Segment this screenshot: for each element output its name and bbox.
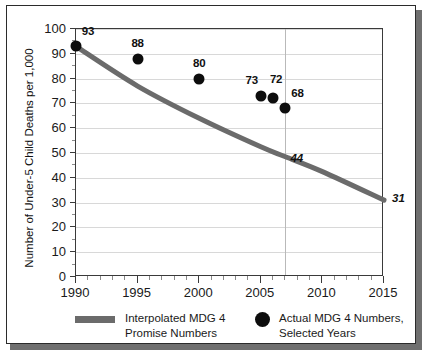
legend-label-line-1: Actual MDG 4 Numbers, bbox=[279, 311, 404, 326]
x-axis-minor-tick bbox=[161, 276, 162, 280]
x-axis-minor-tick bbox=[309, 276, 310, 280]
chart-legend: Interpolated MDG 4 Promise Numbers Actua… bbox=[75, 311, 405, 351]
legend-line-swatch bbox=[75, 316, 115, 323]
x-axis-minor-tick bbox=[100, 276, 101, 280]
data-point bbox=[71, 41, 82, 52]
legend-label-line-2: Selected Years bbox=[279, 326, 404, 341]
data-point-label: 72 bbox=[270, 73, 282, 85]
y-axis-tick-label: 0 bbox=[59, 269, 66, 284]
x-axis-minor-tick bbox=[358, 276, 359, 280]
legend-item-actual: Actual MDG 4 Numbers, Selected Years bbox=[255, 311, 428, 340]
x-axis-tick-label: 2015 bbox=[369, 285, 398, 300]
x-axis-minor-tick bbox=[272, 276, 273, 280]
x-axis-tick bbox=[321, 276, 322, 283]
x-axis-minor-tick bbox=[174, 276, 175, 280]
data-point bbox=[280, 103, 291, 114]
x-axis-minor-tick bbox=[247, 276, 248, 280]
figure-frame: Number of Under-5 Child Deaths per 1,000… bbox=[6, 5, 416, 344]
data-point-label: 93 bbox=[82, 25, 94, 37]
y-axis-tick-label: 30 bbox=[52, 194, 66, 209]
y-axis: 0102030405060708090100 bbox=[7, 28, 75, 276]
x-axis-tick-label: 1995 bbox=[122, 285, 151, 300]
y-axis-tick-label: 90 bbox=[52, 45, 66, 60]
x-axis-tick bbox=[198, 276, 199, 283]
x-axis-minor-tick bbox=[371, 276, 372, 280]
plot-area: 938880737268 4431 bbox=[75, 28, 383, 276]
data-point bbox=[194, 73, 205, 84]
y-axis-tick-label: 60 bbox=[52, 120, 66, 135]
data-point-label: 80 bbox=[193, 57, 205, 69]
legend-dot-swatch bbox=[255, 312, 270, 327]
data-point-label: 68 bbox=[291, 87, 303, 99]
data-point bbox=[255, 90, 266, 101]
y-axis-tick-label: 70 bbox=[52, 95, 66, 110]
y-axis-tick-label: 20 bbox=[52, 219, 66, 234]
x-axis-tick bbox=[137, 276, 138, 283]
x-axis-tick bbox=[383, 276, 384, 283]
y-axis-tick-label: 80 bbox=[52, 70, 66, 85]
x-axis-tick-label: 2010 bbox=[307, 285, 336, 300]
x-axis-minor-tick bbox=[346, 276, 347, 280]
x-axis-minor-tick bbox=[235, 276, 236, 280]
data-point bbox=[268, 93, 279, 104]
y-axis-tick-label: 100 bbox=[44, 21, 66, 36]
legend-label-line-1: Interpolated MDG 4 bbox=[125, 311, 225, 326]
legend-label-line-2: Promise Numbers bbox=[125, 326, 225, 341]
chart-figure: Number of Under-5 Child Deaths per 1,000… bbox=[0, 0, 428, 357]
x-axis-minor-tick bbox=[87, 276, 88, 280]
x-axis-tick bbox=[75, 276, 76, 283]
x-axis-tick-label: 1990 bbox=[61, 285, 90, 300]
data-point-label: 88 bbox=[131, 37, 143, 49]
x-axis-minor-tick bbox=[211, 276, 212, 280]
x-axis: 199019952000200520102015 bbox=[75, 276, 383, 306]
y-axis-tick-label: 10 bbox=[52, 244, 66, 259]
legend-item-interpolated-label: Interpolated MDG 4 Promise Numbers bbox=[125, 311, 225, 340]
x-axis-minor-tick bbox=[124, 276, 125, 280]
x-axis-tick-label: 2005 bbox=[245, 285, 274, 300]
x-axis-minor-tick bbox=[223, 276, 224, 280]
x-axis-minor-tick bbox=[284, 276, 285, 280]
x-axis-minor-tick bbox=[297, 276, 298, 280]
legend-item-interpolated: Interpolated MDG 4 Promise Numbers bbox=[75, 311, 250, 340]
x-axis-minor-tick bbox=[149, 276, 150, 280]
x-axis-tick bbox=[260, 276, 261, 283]
data-point-label: 73 bbox=[246, 74, 258, 86]
y-axis-tick-label: 40 bbox=[52, 169, 66, 184]
legend-item-actual-label: Actual MDG 4 Numbers, Selected Years bbox=[279, 311, 404, 340]
curve-annotation-label: 44 bbox=[290, 152, 303, 164]
curve-annotation-label: 31 bbox=[392, 192, 405, 204]
x-axis-minor-tick bbox=[186, 276, 187, 280]
x-axis-minor-tick bbox=[112, 276, 113, 280]
x-axis-tick-label: 2000 bbox=[184, 285, 213, 300]
y-axis-tick-label: 50 bbox=[52, 145, 66, 160]
interpolated-promise-curve bbox=[76, 29, 384, 277]
data-point bbox=[132, 53, 143, 64]
x-axis-minor-tick bbox=[334, 276, 335, 280]
